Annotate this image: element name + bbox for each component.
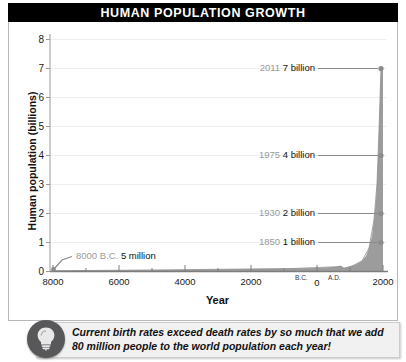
caption-text: Current birth rates exceed death rates b… — [72, 326, 390, 353]
annotation-2011-amount: 7 billion — [283, 62, 315, 73]
y-tick-label-3: 3 — [28, 179, 44, 190]
y-tick-label-4: 4 — [28, 150, 44, 161]
annotation-8000bc-year: 8000 B.C. — [76, 250, 118, 261]
y-tick-label-6: 6 — [28, 92, 44, 103]
annotation-1930: 1930 2 billion — [200, 207, 315, 218]
annotation-8000bc: 8000 B.C. 5 million — [76, 250, 196, 261]
annotation-1850-year: 1850 — [259, 236, 280, 247]
annotation-1850-amount: 1 billion — [283, 236, 315, 247]
annotation-1975-year: 1975 — [259, 149, 280, 160]
annotation-1850: 1850 1 billion — [200, 236, 315, 247]
y-tick-label-8: 8 — [28, 34, 44, 45]
x-tick-label-zero: 0 — [310, 277, 324, 288]
annotation-leader-start — [51, 257, 72, 272]
x-axis-ticks — [53, 265, 383, 272]
x-tick-label-2000ad: 2000 — [366, 276, 400, 287]
annotation-1930-amount: 2 billion — [283, 207, 315, 218]
annotation-2011-year: 2011 — [260, 62, 280, 73]
lightbulb-icon — [27, 320, 65, 358]
x-tick-label-4000bc: 4000 — [168, 276, 202, 287]
population-growth-figure: HUMAN POPULATION GROWTH Human population… — [0, 0, 406, 362]
annotation-1975-amount: 4 billion — [283, 149, 315, 160]
y-tick-label-7: 7 — [28, 63, 44, 74]
x-tick-label-8000bc: 8000 — [36, 276, 70, 287]
y-axis-ticks — [46, 40, 50, 272]
y-tick-label-1: 1 — [28, 237, 44, 248]
x-tick-label-2000bc: 2000 — [234, 276, 268, 287]
annotation-8000bc-amount: 5 million — [121, 250, 156, 261]
chart-plot-area: Human population (billions) Year 8 7 6 5… — [0, 0, 406, 325]
x-axis-title: Year — [45, 294, 390, 306]
y-tick-label-5: 5 — [28, 121, 44, 132]
x-tick-label-6000bc: 6000 — [102, 276, 136, 287]
y-tick-label-2: 2 — [28, 208, 44, 219]
era-label-bc: B.C. — [295, 274, 308, 281]
annotation-1975: 1975 4 billion — [200, 149, 315, 160]
annotation-1930-year: 1930 — [259, 207, 280, 218]
era-label-ad: A.D. — [328, 274, 341, 281]
annotation-leaders — [318, 66, 384, 245]
annotation-2011: 2011 7 billion — [200, 62, 315, 73]
